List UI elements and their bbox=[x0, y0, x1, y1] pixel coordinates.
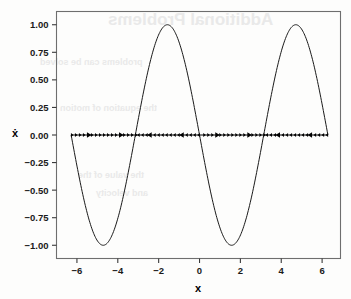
field-arrow bbox=[161, 133, 164, 137]
x-axis-title: x bbox=[195, 282, 202, 294]
y-tick-label: 1.00 bbox=[30, 19, 49, 30]
field-arrow bbox=[75, 133, 78, 137]
field-arrow bbox=[197, 133, 200, 137]
y-tick-label: 0.50 bbox=[30, 74, 49, 85]
field-arrow bbox=[223, 133, 226, 137]
field-arrow bbox=[243, 133, 246, 137]
x-tick-label: 0 bbox=[197, 265, 202, 276]
y-tick-label: −0.25 bbox=[24, 157, 49, 168]
x-tick-label: −2 bbox=[153, 265, 164, 276]
field-arrow bbox=[147, 132, 152, 138]
field-arrow bbox=[173, 133, 176, 137]
field-arrow bbox=[103, 133, 106, 137]
field-arrow bbox=[227, 133, 230, 137]
field-arrow bbox=[95, 133, 98, 137]
phase-portrait-chart: −6−4−202461.000.750.500.250.00−0.25−0.50… bbox=[0, 0, 351, 299]
x-tick-label: 2 bbox=[238, 265, 243, 276]
field-arrow bbox=[131, 133, 134, 137]
field-arrow bbox=[302, 133, 305, 137]
field-arrow bbox=[265, 133, 268, 137]
field-arrow bbox=[179, 132, 184, 138]
field-arrow bbox=[259, 133, 262, 137]
field-arrow bbox=[211, 133, 214, 137]
field-arrow bbox=[235, 133, 238, 137]
field-arrow bbox=[314, 133, 317, 137]
field-arrow bbox=[203, 133, 206, 137]
field-arrow bbox=[219, 133, 222, 137]
x-tick-label: 6 bbox=[319, 265, 324, 276]
x-tick-label: −4 bbox=[112, 265, 124, 276]
field-arrow bbox=[282, 133, 285, 137]
field-arrow bbox=[79, 133, 82, 137]
field-arrow bbox=[318, 133, 321, 137]
field-arrow bbox=[298, 133, 301, 137]
field-arrow bbox=[215, 132, 220, 138]
field-arrow bbox=[87, 132, 92, 138]
field-arrow bbox=[247, 132, 252, 138]
field-arrow bbox=[137, 133, 140, 137]
field-arrow bbox=[185, 133, 188, 137]
field-arrow bbox=[165, 133, 168, 137]
y-tick-label: −0.50 bbox=[24, 185, 48, 196]
field-arrow bbox=[111, 133, 114, 137]
field-arrow bbox=[251, 133, 254, 137]
y-tick-label: −0.75 bbox=[24, 212, 49, 223]
field-arrow bbox=[119, 132, 124, 138]
field-arrow bbox=[270, 133, 273, 137]
field-arrow bbox=[127, 133, 130, 137]
field-arrow bbox=[231, 133, 234, 137]
axis-ticks bbox=[52, 25, 322, 263]
field-arrow bbox=[169, 133, 172, 137]
y-axis-title: ẋ bbox=[12, 127, 19, 139]
field-arrow bbox=[115, 133, 118, 137]
y-tick-label: 0.75 bbox=[30, 47, 49, 58]
field-arrow bbox=[322, 133, 325, 137]
field-arrow bbox=[326, 133, 329, 137]
field-arrow bbox=[71, 133, 74, 137]
y-tick-label: −1.00 bbox=[24, 240, 48, 251]
y-tick-label: 0.00 bbox=[30, 130, 49, 141]
y-tick-label: 0.25 bbox=[30, 102, 49, 113]
field-arrow bbox=[91, 133, 94, 137]
field-arrow bbox=[123, 133, 126, 137]
field-arrow bbox=[276, 132, 281, 138]
field-arrow bbox=[207, 133, 210, 137]
field-arrow bbox=[290, 133, 293, 137]
x-tick-label: −6 bbox=[72, 265, 83, 276]
field-arrow bbox=[153, 133, 156, 137]
field-arrow bbox=[189, 133, 192, 137]
x-tick-label: 4 bbox=[279, 265, 285, 276]
field-arrow bbox=[294, 133, 297, 137]
field-arrow bbox=[83, 133, 86, 137]
field-arrow bbox=[308, 132, 313, 138]
field-arrow bbox=[107, 133, 110, 137]
field-arrow bbox=[157, 133, 160, 137]
field-arrow bbox=[255, 133, 257, 137]
figure-panel: Additional Problems problems can be solv… bbox=[0, 0, 351, 299]
field-arrow bbox=[99, 133, 102, 137]
field-arrow bbox=[239, 133, 242, 137]
field-arrow bbox=[286, 133, 289, 137]
field-arrow bbox=[141, 133, 144, 137]
field-arrow bbox=[193, 133, 196, 137]
